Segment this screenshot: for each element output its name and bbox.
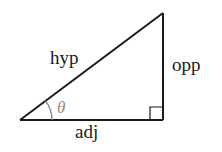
hypotenuse-side bbox=[20, 13, 163, 120]
angle-label: θ bbox=[57, 98, 65, 117]
opposite-label: opp bbox=[172, 54, 201, 75]
adjacent-label: adj bbox=[75, 121, 98, 142]
right-angle-marker bbox=[150, 107, 163, 120]
right-triangle-diagram: hyp opp adj θ bbox=[0, 0, 222, 152]
angle-arc bbox=[46, 101, 52, 120]
hypotenuse-label: hyp bbox=[50, 47, 79, 68]
triangle bbox=[20, 13, 163, 120]
